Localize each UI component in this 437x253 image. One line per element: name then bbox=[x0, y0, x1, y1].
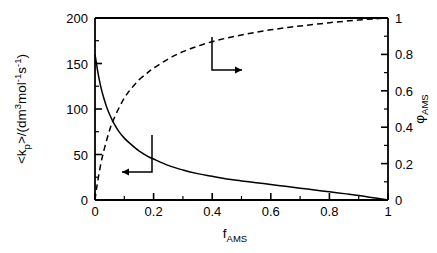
x-tick-label: 0.8 bbox=[320, 204, 338, 219]
left-title-lt: < bbox=[14, 156, 29, 164]
x-tick-label: 1 bbox=[384, 204, 391, 219]
x-axis-title-sub: AMS bbox=[227, 233, 248, 244]
y-right-tick-label: 0 bbox=[395, 193, 402, 208]
left-title-mol: mol bbox=[14, 82, 29, 104]
left-title-minus-one-b: -1 bbox=[12, 58, 23, 66]
y-right-tick-label: 0.6 bbox=[395, 84, 413, 99]
right-title-base: φ bbox=[412, 115, 427, 124]
left-title-minus-one-a: -1 bbox=[12, 74, 23, 82]
chart-svg: 0 0.2 0.4 0.6 0.8 1 0 50 100 150 200 0 0… bbox=[0, 0, 437, 253]
left-title-close: ) bbox=[14, 54, 29, 59]
y-right-tick-label: 0.4 bbox=[395, 120, 413, 135]
x-tick-label: 0.4 bbox=[203, 204, 221, 219]
x-tick-label: 0.2 bbox=[145, 204, 163, 219]
y-left-tick-label: 0 bbox=[81, 193, 88, 208]
y-left-tick-label: 50 bbox=[74, 148, 88, 163]
y-left-tick-label: 200 bbox=[66, 11, 88, 26]
left-title-gt: > bbox=[14, 136, 29, 144]
x-tick-label: 0 bbox=[91, 204, 98, 219]
figure-container: 0 0.2 0.4 0.6 0.8 1 0 50 100 150 200 0 0… bbox=[0, 0, 437, 253]
y-right-tick-label: 0.8 bbox=[395, 47, 413, 62]
y-left-tick-label: 150 bbox=[66, 57, 88, 72]
y-right-tick-label: 1 bbox=[395, 11, 402, 26]
right-title-sub: AMS bbox=[419, 94, 430, 115]
x-tick-label: 0.6 bbox=[262, 204, 280, 219]
y-right-tick-label: 0.2 bbox=[395, 157, 413, 172]
y-left-tick-label: 100 bbox=[66, 102, 88, 117]
left-title-slash-open: /(dm bbox=[14, 109, 29, 136]
